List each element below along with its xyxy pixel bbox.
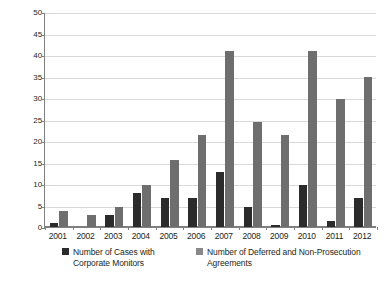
bar-2006-series-2 [198, 135, 207, 227]
x-tick-mark [294, 227, 295, 230]
y-tick-label: 0 [4, 224, 42, 232]
x-tick-label-2006: 2006 [182, 232, 210, 241]
gridline [45, 164, 376, 165]
bar-2003-series-1 [105, 215, 114, 227]
x-tick-label-2009: 2009 [265, 232, 293, 241]
bar-2009-series-2 [281, 135, 290, 227]
gridline [45, 121, 376, 122]
y-tick-mark [42, 185, 45, 186]
x-tick-mark [183, 227, 184, 230]
bar-2004-series-2 [142, 185, 151, 227]
x-tick-label-2001: 2001 [44, 232, 72, 241]
legend-swatch-icon-gray [196, 248, 203, 255]
x-tick-mark [156, 227, 157, 230]
x-tick-mark [239, 227, 240, 230]
bar-2012-series-2 [364, 77, 373, 228]
x-tick-mark [266, 227, 267, 230]
bar-chart: 05101520253035404550 Number of Cases wit… [0, 0, 390, 281]
y-tick-mark [42, 121, 45, 122]
y-tick-mark [42, 35, 45, 36]
bar-2007-series-2 [225, 51, 234, 227]
y-tick-mark [42, 78, 45, 79]
legend-swatch-icon-black [62, 248, 69, 255]
legend-label-deferred-agreements: Number of Deferred and Non-Prosecution A… [207, 247, 361, 269]
y-tick-mark [42, 142, 45, 143]
bar-2004-series-1 [133, 193, 142, 227]
x-tick-label-2003: 2003 [99, 232, 127, 241]
x-tick-label-2011: 2011 [321, 232, 349, 241]
gridline [45, 207, 376, 208]
y-tick-mark [42, 13, 45, 14]
x-tick-mark [349, 227, 350, 230]
y-tick-label: 50 [4, 9, 42, 17]
x-tick-label-2008: 2008 [238, 232, 266, 241]
x-tick-label-2012: 2012 [348, 232, 376, 241]
gridline [45, 56, 376, 57]
y-axis: 05101520253035404550 [0, 0, 42, 228]
bar-2011-series-1 [327, 221, 336, 227]
bar-2008-series-2 [253, 122, 262, 227]
x-tick-label-2010: 2010 [293, 232, 321, 241]
legend-label-corporate-monitors: Number of Cases with Corporate Monitors [73, 247, 155, 269]
y-tick-mark [42, 164, 45, 165]
x-tick-mark [73, 227, 74, 230]
y-tick-mark [42, 207, 45, 208]
gridline [45, 185, 376, 186]
bar-2002-series-2 [87, 215, 96, 227]
x-tick-mark [322, 227, 323, 230]
gridline [45, 13, 376, 14]
x-tick-mark [45, 227, 46, 230]
legend-entry-corporate-monitors: Number of Cases with Corporate Monitors [62, 247, 155, 269]
bar-2005-series-2 [170, 160, 179, 227]
gridline [45, 35, 376, 36]
x-tick-label-2002: 2002 [72, 232, 100, 241]
gridline [45, 78, 376, 79]
gridline [45, 142, 376, 143]
y-tick-label: 45 [4, 31, 42, 39]
x-tick-label-2005: 2005 [155, 232, 183, 241]
bar-2007-series-1 [216, 172, 225, 227]
y-tick-label: 25 [4, 117, 42, 125]
plot-area [44, 13, 376, 228]
y-tick-label: 30 [4, 95, 42, 103]
bar-2009-series-1 [271, 225, 280, 227]
y-tick-label: 15 [4, 160, 42, 168]
gridline [45, 99, 376, 100]
y-tick-mark [42, 56, 45, 57]
x-tick-mark [211, 227, 212, 230]
y-tick-label: 40 [4, 52, 42, 60]
bar-2008-series-1 [244, 207, 253, 227]
y-tick-label: 20 [4, 138, 42, 146]
y-tick-label: 10 [4, 181, 42, 189]
x-tick-mark [128, 227, 129, 230]
bar-2003-series-2 [115, 207, 124, 227]
y-tick-label: 5 [4, 203, 42, 211]
x-tick-label-2007: 2007 [210, 232, 238, 241]
bar-2012-series-1 [354, 198, 363, 227]
bar-2011-series-2 [336, 99, 345, 227]
x-tick-label-2004: 2004 [127, 232, 155, 241]
y-tick-mark [42, 99, 45, 100]
x-tick-mark [100, 227, 101, 230]
x-tick-mark [377, 227, 378, 230]
bar-2001-series-1 [50, 223, 59, 227]
bar-2006-series-1 [188, 198, 197, 227]
bar-2005-series-1 [161, 198, 170, 227]
legend-entry-deferred-agreements: Number of Deferred and Non-Prosecution A… [196, 247, 361, 269]
y-tick-label: 35 [4, 74, 42, 82]
bar-2001-series-2 [59, 211, 68, 227]
bar-2010-series-1 [299, 185, 308, 227]
bar-2010-series-2 [308, 51, 317, 227]
